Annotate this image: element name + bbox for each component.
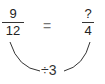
operation-label: ÷3 xyxy=(41,62,56,78)
